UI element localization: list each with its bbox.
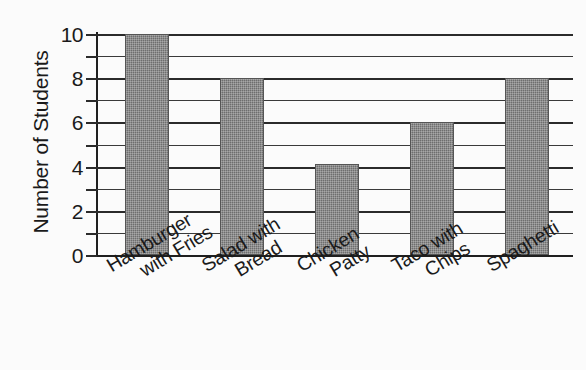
x-axis-label: Taco withChips: [388, 218, 477, 294]
x-axis-category-labels: Hamburgerwith FriesSalad withBreadChicke…: [0, 0, 586, 370]
x-axis-label: Salad withBread: [198, 213, 294, 294]
x-axis-label: Hamburgerwith Fries: [103, 203, 216, 294]
x-axis-label: ChickenPatty: [293, 222, 374, 294]
x-axis-label: Spaghetti: [483, 217, 562, 276]
bar-chart: Number of Students 0246810 Hamburgerwith…: [0, 0, 586, 370]
